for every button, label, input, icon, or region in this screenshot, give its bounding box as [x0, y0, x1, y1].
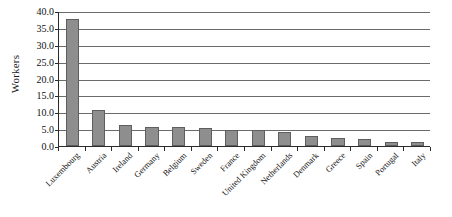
bar: [358, 139, 371, 146]
bar: [199, 128, 212, 146]
y-tickmark: [55, 12, 59, 13]
x-category-label: Austria: [84, 151, 108, 175]
bar: [225, 130, 238, 146]
y-tickmark: [55, 46, 59, 47]
y-tickmark: [55, 130, 59, 131]
y-tick-label: 35.0: [37, 24, 55, 34]
bar: [305, 136, 318, 146]
y-tick-label: 30.0: [37, 41, 55, 51]
y-tickmark: [55, 63, 59, 64]
x-category-label: Denmark: [292, 151, 320, 179]
y-tick-label: 10.0: [37, 108, 55, 118]
bar: [331, 138, 344, 146]
y-tick-label: 20.0: [37, 75, 55, 85]
x-category-label: Greece: [324, 151, 347, 174]
bar: [66, 19, 79, 146]
x-category-label: Germany: [133, 151, 161, 179]
y-tickmark: [55, 113, 59, 114]
x-category-label: Luxembourg: [44, 151, 81, 188]
y-axis-title-text: Workers: [9, 55, 21, 93]
x-category-label: Portugal: [374, 151, 400, 177]
bar: [92, 110, 105, 146]
x-category-label: Italy: [410, 151, 427, 168]
bars-layer: [59, 12, 430, 146]
bar: [252, 130, 265, 146]
x-category-label: Ireland: [111, 151, 134, 174]
x-category-label: Belgium: [161, 151, 188, 178]
bar: [119, 125, 132, 146]
y-tickmark: [55, 80, 59, 81]
bar: [411, 142, 424, 146]
x-category-label: Spain: [354, 151, 374, 171]
bar: [385, 142, 398, 146]
plot-area: [58, 12, 430, 147]
y-tick-label: 5.0: [42, 125, 55, 135]
y-tick-label: 40.0: [37, 7, 55, 17]
bar: [278, 132, 291, 146]
x-axis-category-labels: LuxembourgAustriaIrelandGermanyBelgiumSw…: [0, 151, 452, 217]
y-axis-tick-labels: 0.05.010.015.020.025.030.035.040.0: [26, 12, 56, 147]
bar-chart: Workers 0.05.010.015.020.025.030.035.040…: [0, 0, 452, 217]
y-axis-title: Workers: [4, 0, 26, 148]
y-tick-label: 25.0: [37, 58, 55, 68]
x-category-label: Sweden: [189, 151, 214, 176]
bar: [145, 127, 158, 146]
y-tickmark: [55, 29, 59, 30]
y-tickmark: [55, 96, 59, 97]
x-category-label: France: [218, 151, 240, 173]
bar: [172, 127, 185, 146]
y-tick-label: 15.0: [37, 91, 55, 101]
